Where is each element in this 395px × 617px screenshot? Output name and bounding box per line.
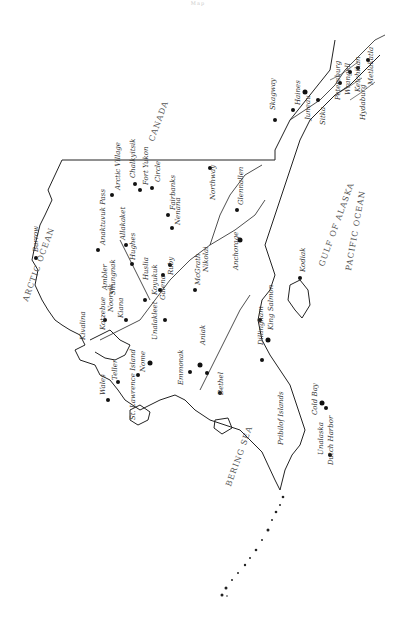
- place-ruby: Ruby: [168, 257, 175, 275]
- place-metlakatla: Metlakatla: [368, 47, 375, 85]
- place-fort-yukon: Fort Yukon: [143, 146, 150, 185]
- place-kivalina: Kivalina: [80, 311, 87, 340]
- place-pribilof-islands: Pribilof Islands: [278, 391, 285, 445]
- seward-peninsula: [90, 330, 130, 360]
- place-hughes: Hughes: [130, 233, 137, 260]
- kuskokwim-river: [200, 295, 250, 390]
- place-dillingham: Dillingham: [258, 306, 265, 345]
- place-nome: Nome: [140, 351, 147, 372]
- place-anchorage: Anchorage: [233, 232, 240, 270]
- place-koyukuk: Koyukuk: [152, 264, 159, 295]
- place-petersburg: Petersburg: [335, 61, 342, 100]
- place-anaktuvuk-pass: Anaktuvuk Pass: [100, 189, 107, 245]
- place-kiana: Kiana: [118, 298, 125, 318]
- place-juneau: Juneau: [305, 95, 312, 120]
- place-unalakleet: Unalakleet: [152, 301, 159, 340]
- place-teller: Teller: [112, 360, 119, 380]
- place-wrangell: Wrangell: [345, 63, 352, 95]
- aleutian-islands: [221, 496, 285, 597]
- place-nikolai: Nikolai: [203, 247, 210, 272]
- place-sitka: Sitka: [320, 107, 327, 125]
- place-circle: Circle: [155, 161, 162, 182]
- place-arctic-village: Arctic Village: [115, 142, 122, 190]
- place-st-lawrence-island: St. Lawrence Island: [130, 349, 137, 420]
- place-huslia: Huslia: [143, 257, 150, 280]
- place-allakaket: Allakaket: [120, 207, 127, 240]
- place-hydaburg: Hydaburg: [360, 84, 367, 120]
- place-king-salmon: King Salmon: [268, 285, 275, 330]
- place-cold-bay: Cold Bay: [312, 383, 319, 415]
- place-chalkyitsik: Chalkyitsik: [130, 138, 137, 178]
- place-northway: Northway: [210, 165, 217, 200]
- place-kotzebue: Kotzebue: [100, 297, 107, 330]
- place-nenana: Nenana: [175, 197, 182, 225]
- place-shungnak: Shungnak: [110, 259, 117, 295]
- place-dutch-harbor: Dutch Harbor: [328, 416, 335, 465]
- place-aniak: Aniak: [200, 325, 207, 345]
- place-mcgrath: McGrath: [195, 253, 202, 285]
- kodiak-island: [288, 280, 310, 318]
- place-galena: Galena: [160, 275, 167, 300]
- place-unalaska: Unalaska: [318, 422, 325, 455]
- place-wales: Wales: [100, 374, 107, 395]
- place-kodiak: Kodiak: [300, 248, 307, 272]
- place-skagway: Skagway: [270, 78, 277, 110]
- place-emmonak: Emmonak: [178, 349, 185, 385]
- place-ambler: Ambler: [102, 264, 109, 290]
- place-glennallen: Glennallen: [238, 167, 245, 205]
- place-haines: Haines: [295, 80, 302, 105]
- place-barrow: Barrow: [33, 226, 40, 252]
- place-bethel: Bethel: [218, 372, 225, 395]
